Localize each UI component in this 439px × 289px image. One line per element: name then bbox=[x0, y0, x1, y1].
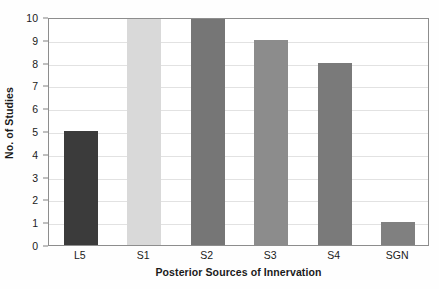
bar-s2 bbox=[191, 18, 225, 245]
y-axis-tick-label: 4 bbox=[32, 149, 38, 161]
x-axis-tick-labels: L5S1S2S3S4SGN bbox=[48, 248, 429, 266]
y-axis-title: No. of Studies bbox=[0, 0, 18, 246]
y-axis-tick-label: 0 bbox=[32, 240, 38, 252]
bar-s3 bbox=[254, 40, 288, 245]
x-axis-tick-label-sgn: SGN bbox=[386, 249, 409, 261]
plot-area bbox=[48, 18, 429, 246]
y-axis-tick-labels: 012345678910 bbox=[18, 18, 42, 246]
y-axis-tick-label: 1 bbox=[32, 217, 38, 229]
x-axis-tick-label-s1: S1 bbox=[137, 249, 150, 261]
bar-sgn bbox=[381, 222, 415, 245]
bar-l5 bbox=[64, 131, 98, 245]
bar-s1 bbox=[127, 18, 161, 245]
bars-container bbox=[49, 19, 428, 245]
bar-chart: No. of Studies 012345678910 L5S1S2S3S4SG… bbox=[0, 0, 439, 289]
y-axis-tick-label: 8 bbox=[32, 58, 38, 70]
y-axis-tick-label: 9 bbox=[32, 35, 38, 47]
y-axis-tick-label: 5 bbox=[32, 126, 38, 138]
x-axis-tick-label-l5: L5 bbox=[74, 249, 86, 261]
y-axis-tick-label: 6 bbox=[32, 103, 38, 115]
y-axis-tick-label: 2 bbox=[32, 194, 38, 206]
x-axis-tick-label-s4: S4 bbox=[327, 249, 340, 261]
bar-s4 bbox=[318, 63, 352, 245]
x-axis-tick-label-s2: S2 bbox=[200, 249, 213, 261]
x-axis-tick-label-s3: S3 bbox=[264, 249, 277, 261]
y-axis-title-label: No. of Studies bbox=[3, 87, 15, 159]
y-axis-tick-label: 10 bbox=[26, 12, 38, 24]
y-axis-tick-label: 7 bbox=[32, 80, 38, 92]
x-axis-title: Posterior Sources of Innervation bbox=[48, 266, 429, 286]
y-axis-tick-label: 3 bbox=[32, 172, 38, 184]
